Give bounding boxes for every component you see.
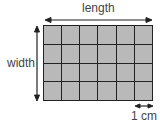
grid-cell bbox=[135, 82, 152, 100]
grid-cell bbox=[80, 82, 97, 100]
grid-cell bbox=[62, 26, 79, 44]
grid-cell bbox=[135, 26, 152, 44]
grid-cell bbox=[135, 64, 152, 82]
grid-cell bbox=[44, 26, 61, 44]
grid-cell bbox=[98, 45, 115, 63]
grid-cell bbox=[135, 45, 152, 63]
grid-cell bbox=[44, 64, 61, 82]
area-grid bbox=[43, 25, 153, 101]
grid-cell bbox=[80, 26, 97, 44]
grid-cell bbox=[98, 82, 115, 100]
unit-arrow-icon bbox=[135, 104, 153, 108]
grid-cell bbox=[80, 45, 97, 63]
grid-cell bbox=[62, 64, 79, 82]
grid-cell bbox=[117, 82, 134, 100]
grid-cell bbox=[117, 45, 134, 63]
length-arrow-icon bbox=[45, 18, 152, 23]
grid-cell bbox=[62, 82, 79, 100]
grid-cell bbox=[62, 45, 79, 63]
grid-cell bbox=[44, 45, 61, 63]
width-arrow-icon bbox=[35, 26, 40, 101]
grid-cell bbox=[117, 26, 134, 44]
grid-cell bbox=[117, 64, 134, 82]
grid-cell bbox=[98, 64, 115, 82]
grid-cell bbox=[80, 64, 97, 82]
grid-cell bbox=[98, 26, 115, 44]
grid-cell bbox=[44, 82, 61, 100]
